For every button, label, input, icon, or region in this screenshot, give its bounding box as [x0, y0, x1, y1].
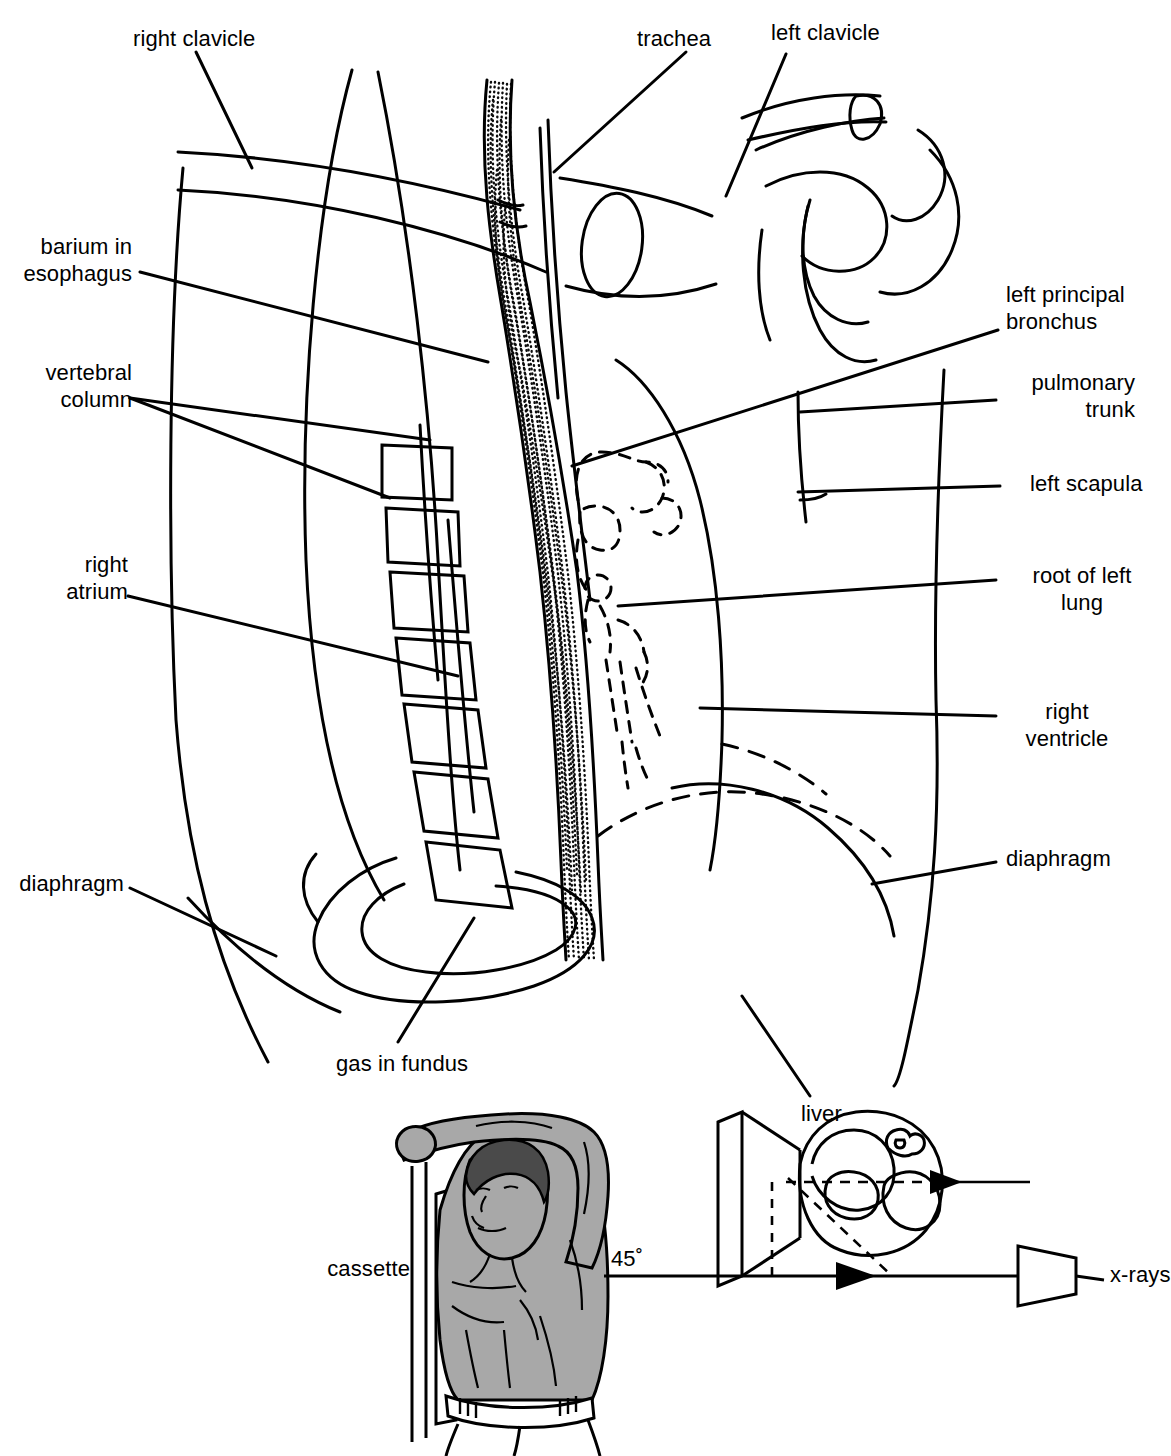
inset-chest-section	[799, 1111, 942, 1255]
label-right-atrium: right atrium	[0, 551, 128, 605]
left-principal-bronchus-oval	[575, 189, 649, 300]
label-xrays: x-rays	[1110, 1261, 1171, 1288]
label-pulmonary-trunk: pulmonary trunk	[1000, 369, 1135, 423]
leader-left-scapula	[798, 486, 1000, 492]
patient-figure	[397, 1114, 609, 1456]
inset-beam-axis	[786, 1170, 1030, 1194]
label-cassette: cassette	[300, 1255, 410, 1282]
xray-tube-cone	[1018, 1246, 1076, 1306]
label-right-clavicle: right clavicle	[133, 25, 255, 52]
leader-liver	[742, 996, 810, 1096]
left-thoracic-wall-outer	[894, 370, 944, 1086]
inset-film-plate	[718, 1112, 800, 1286]
right-heart-border	[305, 70, 384, 900]
heart-inferior-border	[672, 784, 894, 936]
positioning-inset	[397, 1111, 1104, 1456]
label-left-scapula: left scapula	[1030, 470, 1143, 497]
vertebral-column-bodies	[382, 445, 512, 908]
leader-right-atrium	[128, 596, 458, 676]
leader-diaphragm-left	[130, 888, 276, 956]
inset-xray-beam	[604, 1262, 1020, 1290]
inset-angle-diagonal	[788, 1178, 892, 1276]
xray-tube-pointer	[1076, 1276, 1104, 1280]
label-vertebral-column: vertebral column	[0, 359, 132, 413]
leader-pulmonary-trunk	[800, 400, 996, 412]
label-root-of-left-lung: root of left lung	[1007, 562, 1157, 616]
leader-vertebral-column-b	[130, 398, 390, 498]
leader-right-ventricle	[700, 708, 996, 716]
gastric-fundus-outer	[314, 858, 594, 1002]
right-upper-rib-1	[178, 152, 520, 210]
label-left-principal-bronchus: left principal bronchus	[1006, 281, 1166, 335]
leader-left-principal-bronchus	[572, 330, 998, 466]
label-liver: liver	[801, 1100, 842, 1127]
acromion-curve	[892, 130, 945, 221]
label-diaphragm-left: diaphragm	[0, 870, 124, 897]
humerus-shaft-left	[803, 206, 876, 362]
leader-left-clavicle	[726, 54, 786, 196]
label-gas-in-fundus: gas in fundus	[336, 1050, 468, 1077]
left-hemidiaphragm-dashed	[598, 744, 890, 856]
patient-hand	[397, 1127, 436, 1162]
leader-root-left-lung	[618, 580, 996, 606]
label-barium-in-esophagus: barium in esophagus	[0, 233, 132, 287]
lateral-scapula-arc	[880, 150, 959, 294]
vertebral-process-line-1	[420, 425, 438, 680]
leader-vertebral-column-a	[130, 398, 430, 440]
chest-outline-group	[171, 70, 959, 1086]
leader-trachea	[554, 52, 686, 172]
label-trachea: trachea	[637, 25, 711, 52]
left-clavicle-lower	[748, 122, 886, 140]
label-left-clavicle: left clavicle	[771, 19, 880, 46]
esophagus-right-border	[510, 80, 603, 960]
label-diaphragm-right: diaphragm	[1006, 845, 1111, 872]
humeral-head-curve	[766, 172, 887, 271]
fundus-left-dome	[303, 854, 318, 922]
label-angle-45: 45˚	[611, 1245, 643, 1272]
leader-gas-in-fundus	[398, 918, 474, 1042]
label-right-ventricle: right ventricle	[1007, 698, 1127, 752]
leader-right-clavicle	[196, 52, 252, 168]
glenoid-curve	[803, 200, 868, 324]
scapula-body-curve	[759, 230, 770, 340]
